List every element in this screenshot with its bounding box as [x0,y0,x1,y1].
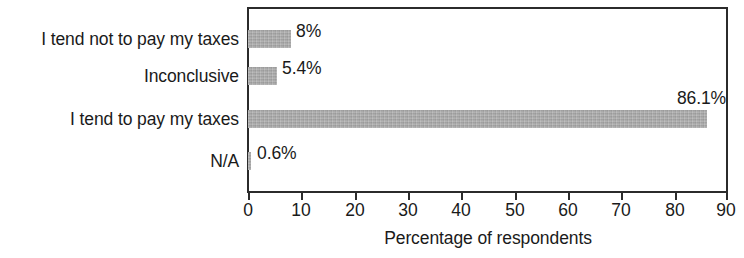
value-label-3: 0.6% [257,143,297,163]
x-tick-8 [675,193,677,200]
x-tick-3 [408,193,410,200]
x-tick-label-6: 60 [546,200,590,220]
x-tick-label-9: 90 [704,200,744,220]
bar-2 [248,110,707,128]
x-tick-label-5: 50 [493,200,537,220]
x-tick-4 [461,193,463,200]
category-axis-labels: I tend not to pay my taxes Inconclusive … [0,0,244,193]
bar-0 [248,30,291,48]
category-label-1: Inconclusive [0,66,239,86]
x-tick-1 [301,193,303,200]
horizontal-bar-chart: I tend not to pay my taxes Inconclusive … [0,0,744,258]
x-tick-label-4: 40 [439,200,483,220]
bar-3 [248,152,251,170]
category-label-3: N/A [0,151,239,171]
value-label-1: 5.4% [282,58,322,78]
x-tick-0 [248,193,250,200]
x-tick-2 [355,193,357,200]
category-label-0: I tend not to pay my taxes [0,29,239,49]
x-axis-title: Percentage of respondents [248,228,728,248]
x-tick-7 [621,193,623,200]
x-tick-label-1: 10 [279,200,323,220]
x-tick-label-0: 0 [226,200,270,220]
bar-1 [248,67,277,85]
x-tick-label-7: 70 [599,200,643,220]
x-tick-5 [515,193,517,200]
x-tick-label-2: 20 [333,200,377,220]
value-label-0: 8% [296,21,321,41]
x-tick-label-3: 30 [386,200,430,220]
x-tick-label-8: 80 [653,200,697,220]
category-label-2: I tend to pay my taxes [0,109,239,129]
value-label-2: 86.1% [606,88,726,108]
x-tick-6 [568,193,570,200]
x-tick-9 [726,193,728,200]
